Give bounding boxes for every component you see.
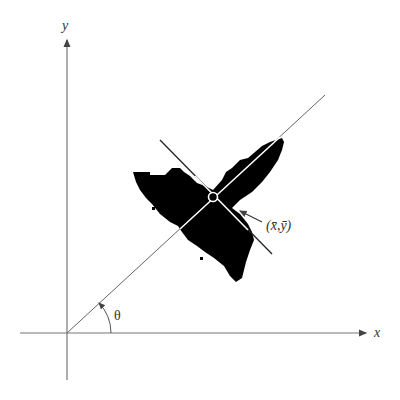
theta-label: θ <box>114 308 121 323</box>
centroid-marker <box>209 193 218 202</box>
theta-arc <box>99 303 111 333</box>
centroid-label: (x̄,ȳ) <box>266 218 292 234</box>
principal-axes-diagram: x y (x̄,ȳ) θ <box>0 0 400 400</box>
x-axis-label: x <box>373 325 381 340</box>
y-axis-label: y <box>60 18 69 33</box>
blob-shape <box>133 138 284 282</box>
